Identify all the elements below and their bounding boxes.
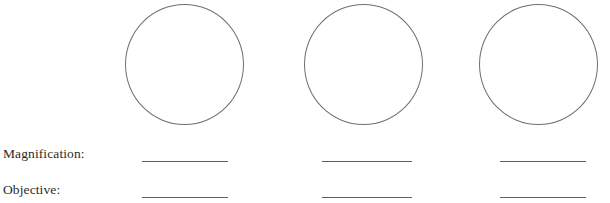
field-of-view-circle-2: [304, 4, 423, 125]
field-of-view-circle-1: [125, 4, 244, 125]
magnification-blank-2[interactable]: [322, 161, 412, 162]
magnification-blank-3[interactable]: [500, 161, 586, 162]
worksheet-page: Magnification: Objective:: [0, 0, 610, 203]
objective-label: Objective:: [3, 182, 60, 198]
magnification-label: Magnification:: [3, 146, 85, 162]
objective-blank-3[interactable]: [500, 197, 586, 198]
field-of-view-circle-3: [479, 4, 598, 125]
field-of-view-circle-row: [0, 0, 610, 132]
objective-blank-2[interactable]: [322, 197, 412, 198]
objective-blank-1[interactable]: [142, 197, 228, 198]
magnification-blank-1[interactable]: [142, 161, 228, 162]
